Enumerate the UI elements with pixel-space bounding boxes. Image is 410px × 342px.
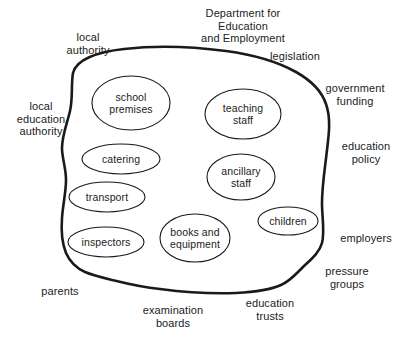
label-examination-boards: examination boards [143, 304, 203, 329]
label-school-premises: school premises [109, 91, 152, 115]
label-ancillary-staff: ancillary staff [221, 165, 260, 189]
label-catering: catering [102, 153, 140, 165]
label-parents: parents [41, 285, 78, 298]
label-pressure-groups: pressure groups [325, 265, 369, 290]
label-inspectors: inspectors [82, 236, 131, 248]
label-transport: transport [86, 191, 128, 203]
label-education-policy: education policy [342, 140, 391, 165]
label-legislation: legislation [270, 50, 320, 63]
label-education-trusts: education trusts [246, 297, 295, 322]
label-books-and-equipment: books and equipment [170, 226, 220, 250]
label-employers: employers [340, 232, 392, 245]
label-children: children [269, 215, 307, 227]
label-local-education-authority: local education authority [17, 100, 66, 138]
label-local-authority: local authority [66, 31, 109, 56]
label-teaching-staff: teaching staff [223, 102, 264, 126]
diagram-title: Department for Education and Employment [153, 7, 333, 45]
label-government-funding: government funding [325, 82, 384, 107]
